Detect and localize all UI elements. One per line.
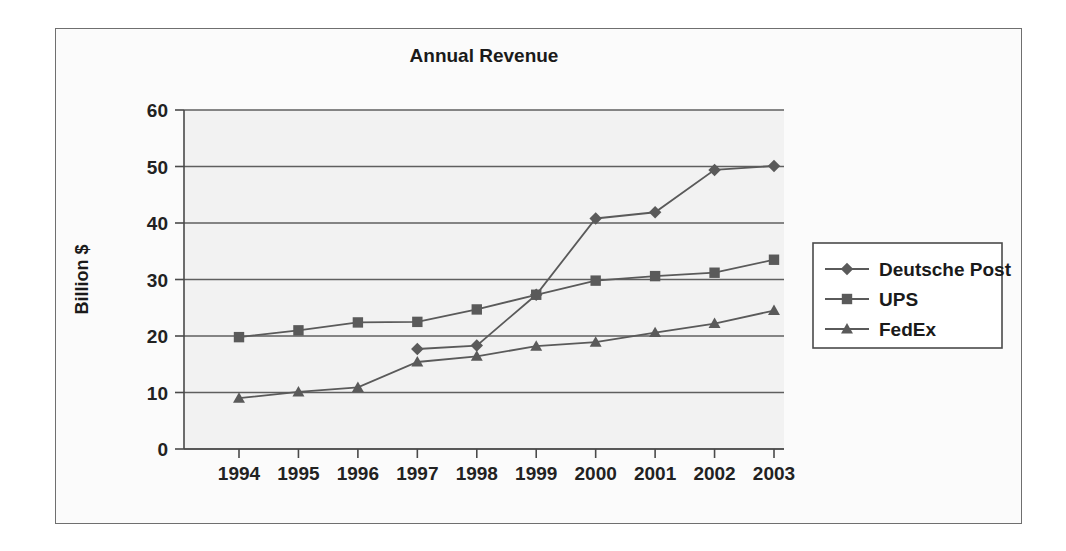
marker-square [769,255,779,265]
x-tick-label-2003: 2003 [753,463,795,484]
x-tick-label-1995: 1995 [277,463,320,484]
y-axis-tick-labels: 0102030405060 [147,100,168,460]
marker-square [842,294,852,304]
chart-title: Annual Revenue [410,45,559,66]
y-axis-title: Billion $ [72,244,92,314]
y-tick-label-50: 50 [147,157,168,178]
marker-square [709,268,719,278]
marker-square [353,317,363,327]
marker-square [650,271,660,281]
y-tick-label-40: 40 [147,213,168,234]
marker-square [590,275,600,285]
annual-revenue-line-chart: 0102030405060 19941995199619971998199920… [56,29,1023,525]
x-tick-label-1998: 1998 [456,463,498,484]
legend-label: Deutsche Post [879,259,1012,280]
y-tick-label-30: 30 [147,270,168,291]
x-tick-label-2000: 2000 [575,463,617,484]
x-axis-ticks [239,449,774,458]
x-tick-label-1999: 1999 [515,463,557,484]
marker-square [531,290,541,300]
x-tick-label-2002: 2002 [693,463,735,484]
x-tick-label-2001: 2001 [634,463,677,484]
marker-square [293,325,303,335]
x-tick-label-1994: 1994 [218,463,261,484]
legend-label: UPS [879,289,918,310]
legend-label: FedEx [879,319,936,340]
x-tick-label-1997: 1997 [396,463,438,484]
x-axis-tick-labels: 1994199519961997199819992000200120022003 [218,463,795,484]
marker-square [412,317,422,327]
x-tick-label-1996: 1996 [337,463,379,484]
y-tick-label-20: 20 [147,326,168,347]
marker-square [234,332,244,342]
marker-square [472,304,482,314]
y-axis-ticks [175,110,184,449]
y-tick-label-10: 10 [147,383,168,404]
chart-figure: 0102030405060 19941995199619971998199920… [55,28,1022,524]
chart-legend: Deutsche PostUPSFedEx [813,243,1012,348]
y-tick-label-0: 0 [157,439,168,460]
y-tick-label-60: 60 [147,100,168,121]
